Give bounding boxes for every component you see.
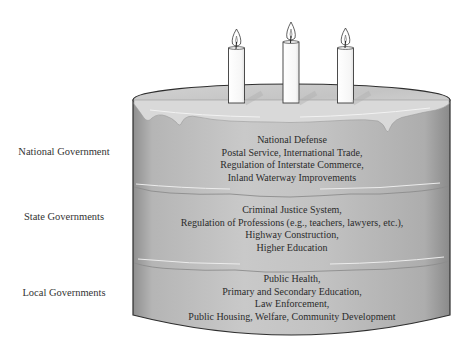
layer-item: Highway Construction,	[135, 229, 449, 242]
label-national-government: National Government	[0, 145, 128, 158]
layer-item: Public Health,	[135, 273, 449, 286]
candle-icon	[338, 28, 354, 103]
candle-icon	[283, 22, 299, 103]
national-layer-text: National Defense Postal Service, Interna…	[135, 134, 449, 184]
layer-item: Inland Waterway Improvements	[135, 172, 449, 185]
layer-item: Law Enforcement,	[135, 298, 449, 311]
layer-item: Postal Service, International Trade,	[135, 147, 449, 160]
label-state-governments: State Governments	[0, 210, 128, 223]
layer-item: Public Housing, Welfare, Community Devel…	[135, 311, 449, 324]
layer-item: Higher Education	[135, 242, 449, 255]
local-layer-text: Public Health, Primary and Secondary Edu…	[135, 273, 449, 323]
label-local-governments: Local Governments	[0, 286, 128, 299]
state-layer-text: Criminal Justice System, Regulation of P…	[135, 204, 449, 254]
layer-item: Criminal Justice System,	[135, 204, 449, 217]
layer-item: Regulation of Interstate Commerce,	[135, 159, 449, 172]
layer-item: Regulation of Professions (e.g., teacher…	[135, 217, 449, 230]
candle-icon	[229, 29, 245, 103]
layer-item: Primary and Secondary Education,	[135, 286, 449, 299]
layer-cake-diagram: National Government State Governments Lo…	[0, 0, 474, 347]
layer-item: National Defense	[135, 134, 449, 147]
